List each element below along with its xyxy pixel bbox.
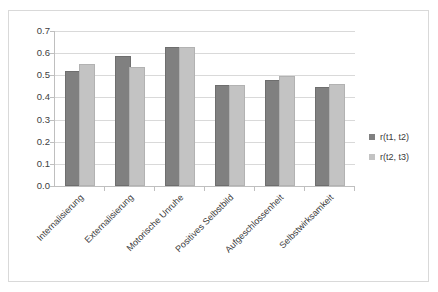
- legend-entry[interactable]: r(t2, t3): [369, 147, 429, 167]
- bar[interactable]: [329, 84, 345, 186]
- bar-group: [265, 31, 293, 186]
- y-axis-tick-label: 0.4: [18, 93, 50, 103]
- y-axis-tick-label: 0.2: [18, 137, 50, 147]
- bar[interactable]: [129, 67, 145, 186]
- bar[interactable]: [229, 85, 245, 186]
- x-axis-tick-mark: [304, 187, 305, 191]
- legend-label: r(t2, t3): [380, 152, 409, 162]
- y-axis-tick-label: 0.3: [18, 115, 50, 125]
- x-axis-category-label: Positives Selbstbild: [144, 193, 235, 284]
- x-axis-category-label: Externalisierung: [44, 193, 135, 284]
- y-axis-tick-labels: 0.70.60.50.40.30.20.10.0: [13, 31, 50, 186]
- chart-frame: 0.70.60.50.40.30.20.10.0 Internalisierun…: [8, 10, 429, 282]
- x-axis-tick-mark: [354, 187, 355, 191]
- x-axis-category-label: Internalisierung: [0, 193, 85, 284]
- bar[interactable]: [279, 76, 295, 187]
- y-axis-tick-label: 0.5: [18, 71, 50, 81]
- x-axis-category-label: Selbstwirksamkeit: [244, 193, 335, 284]
- chart-legend: r(t1, t2)r(t2, t3): [369, 127, 429, 167]
- x-axis-category-label: Motorische Unruhe: [94, 193, 185, 284]
- bar-group: [215, 31, 243, 186]
- y-axis-tick-label: 0.1: [18, 159, 50, 169]
- x-axis-tick-mark: [204, 187, 205, 191]
- x-axis-tick-mark: [254, 187, 255, 191]
- bar[interactable]: [79, 64, 95, 186]
- bar-group: [115, 31, 143, 186]
- x-axis-category-label: Aufgeschlossenheit: [194, 193, 285, 284]
- legend-label: r(t1, t2): [380, 132, 409, 142]
- bar-group: [65, 31, 93, 186]
- bar-series-container: [54, 31, 354, 186]
- y-axis-tick-label: 0.7: [18, 26, 50, 36]
- y-axis-tick-label: 0.6: [18, 48, 50, 58]
- legend-entry[interactable]: r(t1, t2): [369, 127, 429, 147]
- bar-group: [165, 31, 193, 186]
- x-axis-tick-mark: [154, 187, 155, 191]
- y-axis-tick-label: 0.0: [18, 181, 50, 191]
- legend-swatch-icon: [369, 134, 375, 140]
- x-axis-tick-mark: [104, 187, 105, 191]
- bar-group: [315, 31, 343, 186]
- bar[interactable]: [179, 47, 195, 186]
- legend-swatch-icon: [369, 154, 375, 160]
